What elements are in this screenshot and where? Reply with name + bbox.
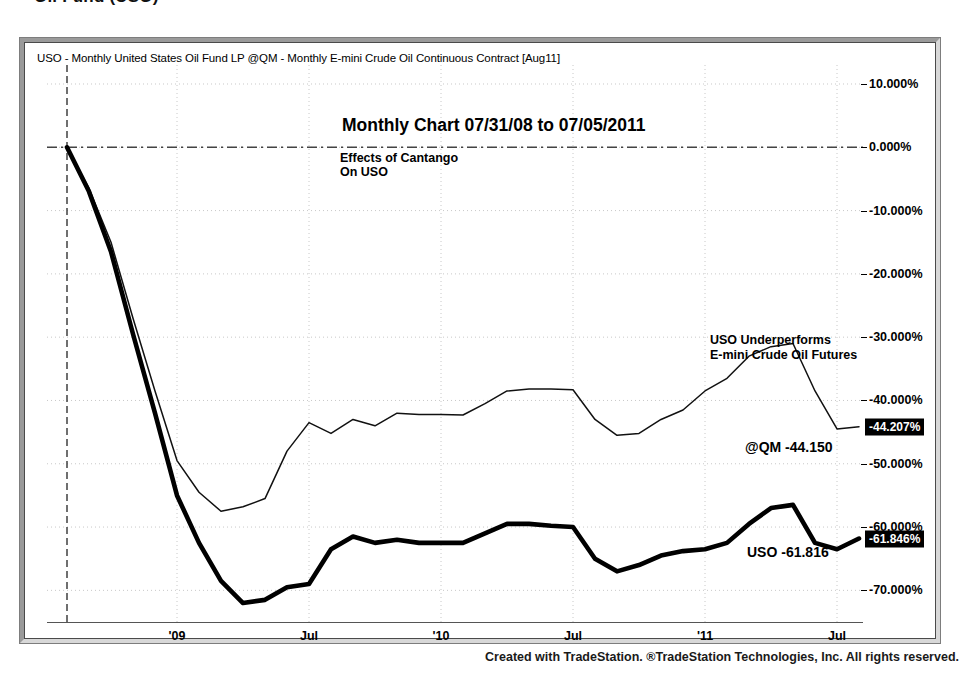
page-heading: Oil Fund (USO) (34, 0, 159, 7)
series-line-uso (67, 147, 859, 603)
y-axis-tick: -30.000% (869, 330, 923, 344)
y-axis-tick: -70.000% (869, 583, 923, 597)
chart-symbols-line: USO - Monthly United States Oil Fund LP … (37, 52, 560, 64)
chart-inner: USO - Monthly United States Oil Fund LP … (24, 42, 936, 639)
y-axis-tick: 0.000% (869, 140, 911, 154)
y-axis: 10.000%0.000%-10.000%-20.000%-30.000%-40… (863, 65, 941, 622)
y-axis-value-marker-qm: -44.207% (865, 419, 924, 436)
x-axis-tick: Jul (564, 629, 582, 643)
x-axis-tick: Jul (828, 629, 846, 643)
y-axis-tick: -50.000% (869, 457, 923, 471)
chart-frame: USO - Monthly United States Oil Fund LP … (20, 38, 940, 643)
chart-subtitle: Effects of Cantango On USO (340, 151, 458, 179)
x-axis-tick: '11 (697, 629, 713, 643)
plot-area: Monthly Chart 07/31/08 to 07/05/2011 Eff… (47, 65, 863, 622)
x-axis-tick: Jul (300, 629, 318, 643)
callout-line-1: USO Underperforms (710, 333, 857, 348)
callout-line-2: E-mini Crude Oil Futures (710, 348, 857, 363)
series-line-qm (67, 147, 859, 511)
footer-credit: Created with TradeStation. ®TradeStation… (485, 650, 959, 664)
y-axis-tick: -20.000% (869, 267, 923, 281)
callout-annotation: USO Underperforms E-mini Crude Oil Futur… (710, 333, 857, 363)
subtitle-line-2: On USO (340, 165, 458, 179)
y-axis-value-marker-uso: -61.846% (865, 530, 924, 547)
y-axis-tick: -10.000% (869, 204, 923, 218)
chart-title: Monthly Chart 07/31/08 to 07/05/2011 (342, 115, 645, 136)
series-label-qm: @QM -44.150 (745, 439, 833, 455)
y-axis-tick: -40.000% (869, 393, 923, 407)
x-axis-tick: '10 (433, 629, 450, 643)
x-axis-tick: '09 (169, 629, 186, 643)
series-label-uso: USO -61.816 (747, 544, 829, 560)
subtitle-line-1: Effects of Cantango (340, 151, 458, 165)
x-axis: '09Jul'10Jul'11Jul (47, 622, 863, 653)
y-axis-tick: 10.000% (869, 77, 918, 91)
